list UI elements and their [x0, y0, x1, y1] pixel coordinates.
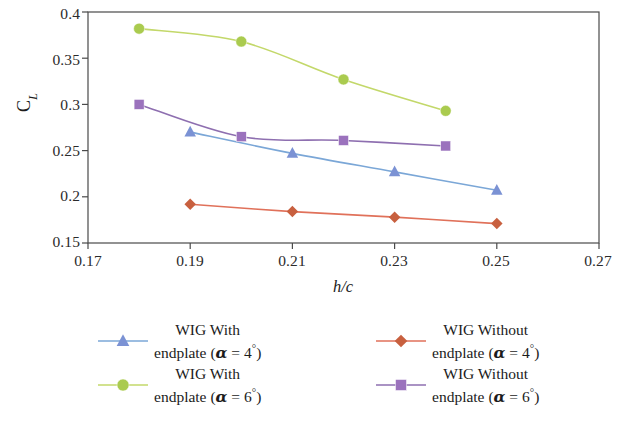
legend-line2-mid: = 6: [505, 388, 529, 405]
x-tick-label-3: 0.23: [380, 252, 408, 270]
series-wig-with-endplate-alpha-6-point-3: [440, 105, 451, 116]
legend-label-wig-with-endplate-alpha-6: WIG With endplate (α = 6°): [154, 364, 261, 406]
series-wig-without-endplate-alpha-6-point-1: [236, 132, 246, 142]
legend-entry-wig-without-endplate-alpha-4[interactable]: WIG Without endplate (α = 4°): [370, 320, 539, 362]
x-tick-label-1: 0.19: [176, 252, 204, 270]
series-wig-without-endplate-alpha-6: [134, 99, 451, 151]
y-tick-label-1: 0.35: [22, 51, 80, 69]
y-axis-label-subscript: L: [26, 93, 40, 100]
figure-container: 0.4 0.35 0.3 0.25 0.2 0.15 0.17 0.19 0.2…: [0, 0, 617, 435]
series-wig-with-endplate-alpha-6-line: [139, 29, 446, 111]
series-wig-without-endplate-alpha-6-point-3: [441, 141, 451, 151]
plot-frame: [88, 12, 599, 243]
legend-label-wig-without-endplate-alpha-4: WIG Without endplate (α = 4°): [432, 320, 539, 362]
legend-marker-triangle-icon: [92, 328, 154, 354]
legend-line2-suffix: ): [256, 344, 261, 361]
legend-line2-mid: = 6: [227, 388, 251, 405]
legend-line1: WIG Without: [443, 365, 528, 382]
series-wig-without-endplate-alpha-4-point-2: [389, 211, 401, 223]
legend-marker-square-icon: [370, 372, 432, 398]
legend-line2-mid: = 4: [505, 344, 529, 361]
chart-plot-area: 0.4 0.35 0.3 0.25 0.2 0.15 0.17 0.19 0.2…: [0, 0, 617, 305]
legend-marker-point-0: [396, 380, 407, 391]
legend-line2-suffix: ): [534, 388, 539, 405]
series-wig-with-endplate-alpha-6-point-1: [236, 36, 247, 47]
x-axis-label: h/c: [333, 277, 353, 297]
series-wig-without-endplate-alpha-4: [184, 198, 502, 229]
series-wig-with-endplate-alpha-4-point-0: [184, 126, 196, 137]
series-wig-without-endplate-alpha-6-point-0: [134, 99, 144, 109]
x-tick-label-5: 0.27: [584, 252, 612, 270]
legend-line2-mid: = 4: [227, 344, 251, 361]
legend-entry-wig-with-endplate-alpha-6[interactable]: WIG With endplate (α = 6°): [92, 364, 261, 406]
legend-label-wig-with-endplate-alpha-4: WIG With endplate (α = 4°): [154, 320, 261, 362]
series-wig-without-endplate-alpha-6-line: [139, 104, 446, 146]
legend-line1: WIG Without: [443, 321, 528, 338]
legend-alpha-symbol: α: [216, 343, 228, 362]
legend-marker-point-0: [117, 379, 129, 391]
legend-line2-prefix: endplate (: [154, 344, 216, 361]
legend-label-wig-without-endplate-alpha-6: WIG Without endplate (α = 6°): [432, 364, 539, 406]
legend-line2-suffix: ): [256, 388, 261, 405]
legend-line1: WIG With: [175, 365, 240, 382]
series-wig-without-endplate-alpha-4-line: [190, 204, 497, 223]
x-tick-label-2: 0.21: [278, 252, 306, 270]
series-wig-with-endplate-alpha-6-point-0: [134, 23, 145, 34]
legend-alpha-symbol: α: [216, 387, 228, 406]
legend-line2-prefix: endplate (: [432, 388, 494, 405]
legend-alpha-symbol: α: [494, 387, 506, 406]
legend-entry-wig-without-endplate-alpha-6[interactable]: WIG Without endplate (α = 6°): [370, 364, 539, 406]
legend-marker-circle-icon: [92, 372, 154, 398]
y-tick-label-0: 0.4: [22, 5, 80, 23]
x-tick-label-4: 0.25: [482, 252, 510, 270]
series-wig-without-endplate-alpha-4-point-3: [491, 218, 503, 230]
y-axis-label-main: C: [14, 100, 34, 112]
y-tick-label-4: 0.2: [22, 187, 80, 205]
y-tick-label-3: 0.25: [22, 142, 80, 160]
chart-legend: WIG With endplate (α = 4°) WIG With endp…: [0, 318, 617, 435]
legend-alpha-symbol: α: [494, 343, 506, 362]
legend-line2-prefix: endplate (: [154, 388, 216, 405]
legend-line2-suffix: ): [534, 344, 539, 361]
legend-line2-prefix: endplate (: [432, 344, 494, 361]
series-wig-without-endplate-alpha-6-point-2: [339, 135, 349, 145]
legend-line1: WIG With: [175, 321, 240, 338]
series-wig-without-endplate-alpha-4-point-1: [287, 206, 299, 218]
legend-marker-diamond-icon: [370, 328, 432, 354]
y-axis-label: CL: [14, 93, 39, 112]
series-wig-without-endplate-alpha-4-point-0: [184, 198, 196, 210]
legend-entry-wig-with-endplate-alpha-4[interactable]: WIG With endplate (α = 4°): [92, 320, 261, 362]
series-wig-with-endplate-alpha-6-point-2: [338, 74, 349, 85]
y-tick-label-5: 0.15: [22, 233, 80, 251]
legend-marker-point-0: [395, 335, 408, 348]
x-tick-label-0: 0.17: [74, 252, 102, 270]
legend-marker-point-0: [117, 334, 130, 346]
series-wig-with-endplate-alpha-6: [134, 23, 452, 116]
